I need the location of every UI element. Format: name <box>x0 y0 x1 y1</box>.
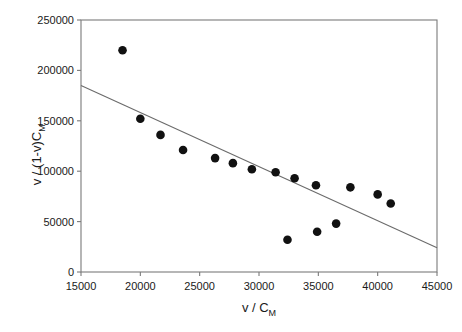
tick-marks <box>77 20 437 276</box>
data-point <box>332 219 341 228</box>
data-point <box>313 227 322 236</box>
x-tick-label: 25000 <box>184 280 215 292</box>
data-point <box>248 165 257 174</box>
y-axis-title-subscript: M <box>37 124 47 132</box>
data-point <box>386 199 395 208</box>
x-tick-label: 30000 <box>244 280 275 292</box>
data-point <box>346 183 355 192</box>
data-point <box>229 159 238 168</box>
x-tick-label: 15000 <box>66 280 97 292</box>
y-tick-label: 250000 <box>10 14 74 26</box>
x-tick-label: 20000 <box>125 280 156 292</box>
y-tick-label: 200000 <box>10 64 74 76</box>
data-point <box>136 114 145 123</box>
data-point <box>312 181 321 190</box>
plot-border <box>81 20 437 272</box>
data-point <box>179 146 188 155</box>
x-tick-label: 35000 <box>303 280 334 292</box>
axis-frame <box>81 20 437 272</box>
x-tick-label: 40000 <box>362 280 393 292</box>
data-point <box>156 131 165 140</box>
x-axis-title-subscript: M <box>269 308 277 318</box>
y-axis-title: v / (1-v)CM <box>29 85 47 225</box>
y-tick-label: 0 <box>10 266 74 278</box>
data-points <box>118 46 395 244</box>
scatter-chart: 050000100000150000200000250000 150002000… <box>0 0 462 332</box>
data-point <box>271 168 280 177</box>
trend-line <box>81 86 437 248</box>
x-axis-title: v / CM <box>242 300 276 318</box>
data-point <box>118 46 127 55</box>
data-point <box>290 174 299 183</box>
data-point <box>283 235 292 244</box>
x-tick-label: 45000 <box>422 280 453 292</box>
trend-line-segment <box>81 86 437 248</box>
data-point <box>373 190 382 199</box>
data-point <box>211 154 220 163</box>
